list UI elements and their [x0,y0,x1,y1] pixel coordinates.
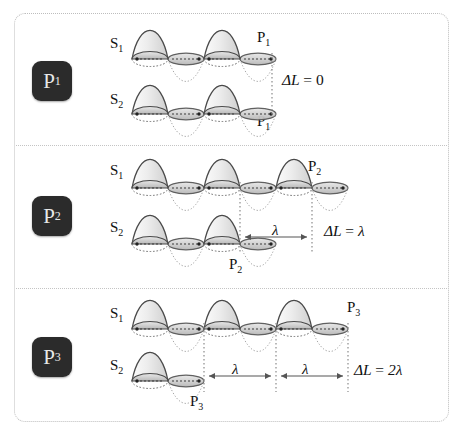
panel-badge-p1: P1 [32,61,72,101]
source-sub: 1 [118,313,123,324]
delta-l-symbol: ΔL [282,71,299,88]
point-label-p1-top: P1 [257,29,270,48]
equals-sign: = [345,222,354,239]
lambda-dimension-arrow-p3-1 [209,373,271,379]
source-label-s2-p3: S2 [110,357,123,376]
lambda-dimension-arrow-p3-2 [281,373,343,379]
source-sub: 1 [118,170,123,181]
lambda-label-p2-1: λ [272,222,279,239]
delta-l-value: λ [358,222,365,239]
point-sub: 2 [237,264,242,275]
source-sub: 2 [118,227,123,238]
point-label-p1-bottom: P1 [257,113,270,132]
delta-l-symbol: ΔL [354,361,371,378]
delta-l-symbol: ΔL [324,222,341,239]
lambda-label-p3-1: λ [232,361,239,378]
point-label-p2-top: P2 [308,158,321,177]
panel-p2: P2 S1 S2 P2 P2 λ ΔL = λ [14,146,449,288]
panel-p1: P1 S1 S2 P1 P1 ΔL = 0 [14,13,449,145]
badge-letter: P [43,345,55,370]
point-sub: 1 [265,37,270,48]
point-sub: 3 [355,307,360,318]
point-sub: 3 [198,401,203,412]
point-sub: 2 [316,166,321,177]
source-label-s1-p2: S1 [110,162,123,181]
source-label-s2-p1: S2 [110,91,123,110]
wave-interference-figure: P1 S1 S2 P1 P1 ΔL = 0 [0,0,463,435]
badge-letter: P [43,204,55,229]
lambda-label-p3-2: λ [302,361,309,378]
panel-badge-p2: P2 [32,196,72,236]
delta-l-annotation-p2: ΔL = λ [324,222,365,240]
wave-diagram-p1 [14,13,449,145]
delta-l-value: 2λ [388,361,402,378]
source-label-s1-p1: S1 [110,35,123,54]
source-label-s1-p3: S1 [110,305,123,324]
panel-badge-p3: P3 [32,337,72,377]
badge-letter: P [43,69,55,94]
wave-diagram-p3 [14,289,449,422]
equals-sign: = [375,361,384,378]
point-sub: 1 [265,121,270,132]
point-label-p3-bottom: P3 [190,393,203,412]
delta-l-annotation-p3: ΔL = 2λ [354,361,402,379]
point-label-p2-bottom: P2 [229,256,242,275]
source-sub: 2 [118,365,123,376]
delta-l-annotation-p1: ΔL = 0 [282,71,324,89]
source-sub: 2 [118,99,123,110]
source-label-s2-p2: S2 [110,219,123,238]
point-label-p3-top: P3 [347,299,360,318]
panel-p3: P3 S1 S2 P3 P3 λ λ ΔL = 2λ [14,289,449,422]
delta-l-value: 0 [316,71,324,88]
equals-sign: = [303,71,312,88]
source-sub: 1 [118,43,123,54]
